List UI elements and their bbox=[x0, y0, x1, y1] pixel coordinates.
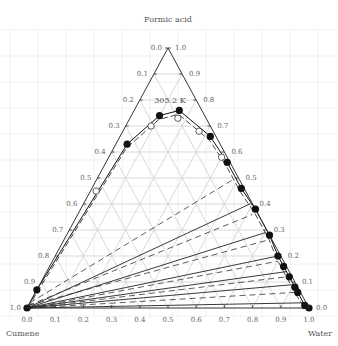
data-point-open bbox=[218, 154, 224, 160]
left-tick-label: 0.1 bbox=[137, 70, 148, 78]
right-tick-label: 0.1 bbox=[302, 278, 313, 286]
vertex-label-formic-acid: Formic acid bbox=[144, 15, 192, 24]
right-tick-label: 0.5 bbox=[246, 174, 257, 182]
data-point-filled bbox=[224, 159, 231, 166]
data-point-filled bbox=[176, 107, 183, 114]
tie-line-calculated bbox=[30, 277, 287, 308]
temperature-label: 305.2 K bbox=[154, 96, 186, 105]
bottom-tick-label: 0.6 bbox=[191, 316, 203, 324]
left-tick-label: 0.6 bbox=[66, 200, 78, 208]
ternary-grid bbox=[41, 74, 295, 308]
data-point-filled bbox=[156, 112, 163, 119]
right-tick-label: 0.7 bbox=[217, 122, 228, 130]
left-tick-label: 0.8 bbox=[38, 252, 49, 260]
left-tick-label: 0.4 bbox=[94, 148, 106, 156]
bottom-tick-label: 0.2 bbox=[78, 316, 89, 324]
data-point-filled bbox=[238, 185, 245, 192]
right-tick-label: 0.0 bbox=[316, 304, 327, 312]
data-point-open bbox=[175, 115, 181, 121]
right-tick-label: 0.3 bbox=[274, 226, 285, 234]
ternary-diagram: 0.00.10.20.30.40.50.60.70.80.91.01.00.90… bbox=[0, 0, 338, 346]
tie-line-experimental bbox=[27, 285, 293, 308]
data-point-open bbox=[196, 128, 202, 134]
left-tick-label: 0.9 bbox=[24, 278, 35, 286]
left-tick-label: 0.0 bbox=[151, 44, 162, 52]
vertex-label-cumene: Cumene bbox=[6, 329, 40, 338]
left-tick-label: 0.2 bbox=[123, 96, 134, 104]
bottom-tick-label: 0.4 bbox=[134, 316, 146, 324]
bottom-tick-label: 0.7 bbox=[219, 316, 230, 324]
right-tick-label: 0.2 bbox=[288, 252, 299, 260]
bottom-tick-label: 0.3 bbox=[106, 316, 117, 324]
data-point-open bbox=[93, 188, 99, 194]
right-tick-label: 0.6 bbox=[231, 148, 243, 156]
data-point-filled bbox=[33, 286, 40, 293]
vertex-label-water: Water bbox=[308, 329, 332, 338]
data-point-filled bbox=[207, 133, 214, 140]
bottom-tick-label: 0.8 bbox=[247, 316, 258, 324]
bottom-tick-label: 1.0 bbox=[303, 316, 314, 324]
right-tick-label: 0.4 bbox=[260, 200, 272, 208]
grid-line bbox=[126, 126, 225, 308]
bottom-tick-label: 0.5 bbox=[162, 316, 173, 324]
data-point-filled bbox=[294, 289, 301, 296]
bottom-tick-label: 0.0 bbox=[21, 316, 32, 324]
left-tick-label: 0.3 bbox=[109, 122, 120, 130]
data-markers bbox=[23, 107, 312, 312]
left-tick-label: 1.0 bbox=[10, 304, 21, 312]
data-point-filled bbox=[280, 263, 287, 270]
data-point-filled bbox=[252, 206, 259, 213]
left-tick-label: 0.7 bbox=[52, 226, 63, 234]
grid-line bbox=[55, 74, 182, 308]
data-point-filled bbox=[124, 141, 131, 148]
data-point-open bbox=[148, 123, 154, 129]
left-tick-label: 0.5 bbox=[80, 174, 91, 182]
right-tick-label: 0.8 bbox=[203, 96, 214, 104]
data-point-filled bbox=[266, 232, 273, 239]
right-tick-label: 1.0 bbox=[175, 44, 186, 52]
bottom-tick-label: 0.9 bbox=[275, 316, 286, 324]
bottom-tick-label: 0.1 bbox=[50, 316, 61, 324]
right-tick-label: 0.9 bbox=[189, 70, 200, 78]
data-point-filled bbox=[286, 273, 293, 280]
